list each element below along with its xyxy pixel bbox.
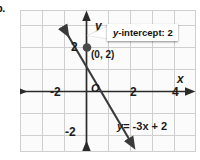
equation-rhs: = -3x + 2 — [123, 120, 167, 132]
x-tick-label-4: 4 — [172, 86, 179, 98]
x-tick-label-neg2: -2 — [50, 86, 61, 98]
x-axis-label: x — [177, 73, 184, 85]
callout-text: -intercept: 2 — [118, 27, 172, 38]
figure-canvas: b. — [0, 0, 200, 160]
problem-letter: b. — [0, 2, 5, 14]
y-tick-label-neg2: -2 — [65, 126, 76, 138]
callout-pointer — [86, 26, 108, 42]
equation-label: y= -3x + 2 — [117, 121, 167, 132]
x-tick-label-2: 2 — [130, 86, 137, 98]
origin-label: O — [91, 83, 100, 94]
y-intercept-callout: y-intercept: 2 — [107, 24, 178, 41]
point-label: (0, 2) — [91, 50, 114, 60]
y-intercept-point — [83, 43, 92, 52]
y-tick-label-2: 2 — [71, 41, 78, 53]
